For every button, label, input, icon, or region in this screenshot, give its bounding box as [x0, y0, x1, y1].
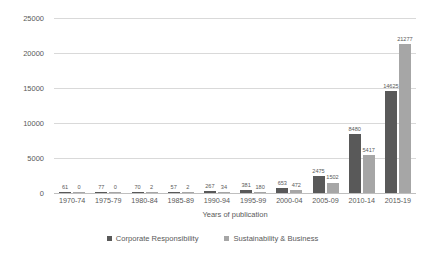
bar-slot: 14625	[385, 18, 397, 193]
bar-slot: 70	[132, 18, 144, 193]
bar-slot: 61	[59, 18, 71, 193]
bar-value-label: 0	[114, 185, 117, 191]
bar-slot: 653	[276, 18, 288, 193]
bar-slot: 77	[95, 18, 107, 193]
bar-slot: 267	[204, 18, 216, 193]
x-axis-tick-label: 1975-79	[90, 196, 126, 205]
bar-value-label: 1502	[326, 175, 338, 181]
bar-groups: 6107707025722673438118065347224751502848…	[54, 18, 416, 193]
bar-slot: 2475	[313, 18, 325, 193]
y-axis-tick-labels: 0500010000150002000025000	[0, 18, 50, 193]
bar[interactable]	[240, 190, 252, 193]
bar[interactable]	[73, 192, 85, 193]
bar[interactable]	[132, 192, 144, 193]
bar-group: 653472	[271, 18, 307, 193]
y-axis-tick-label: 10000	[23, 119, 44, 128]
bar[interactable]	[182, 192, 194, 193]
bar-slot: 8480	[349, 18, 361, 193]
legend-label: Sustainability & Business	[233, 234, 318, 243]
bar-slot: 2	[146, 18, 158, 193]
bar-slot: 381	[240, 18, 252, 193]
x-axis-title: Years of publication	[54, 210, 416, 219]
legend-item[interactable]: Corporate Responsibility	[107, 234, 199, 243]
bar-slot: 0	[109, 18, 121, 193]
bar-value-label: 472	[292, 183, 301, 189]
bar-value-label: 57	[171, 185, 177, 191]
bar[interactable]	[363, 155, 375, 193]
bar-slot: 5417	[363, 18, 375, 193]
x-axis-tick-label: 1995-99	[235, 196, 271, 205]
bar-value-label: 5417	[362, 148, 374, 154]
bar-chart: Number of WoS publications 0500010000150…	[0, 0, 425, 258]
bar-group: 24751502	[307, 18, 343, 193]
bar[interactable]	[146, 192, 158, 193]
bar-group: 84805417	[344, 18, 380, 193]
x-axis-tick-label: 2005-09	[307, 196, 343, 205]
legend: Corporate ResponsibilitySustainability &…	[0, 234, 425, 243]
gridline	[54, 193, 416, 194]
x-axis-tick-label: 2010-14	[344, 196, 380, 205]
bar-value-label: 653	[278, 181, 287, 187]
bar-value-label: 70	[134, 185, 140, 191]
x-axis-tick-label: 1970-74	[54, 196, 90, 205]
bar-group: 1462521277	[380, 18, 416, 193]
bar-value-label: 0	[78, 185, 81, 191]
bar-value-label: 21277	[397, 37, 413, 43]
x-axis-tick-labels: 1970-741975-791980-841985-891990-941995-…	[54, 196, 416, 205]
bar-slot: 180	[254, 18, 266, 193]
legend-item[interactable]: Sustainability & Business	[224, 234, 318, 243]
bar-value-label: 8480	[348, 127, 360, 133]
bar[interactable]	[168, 192, 180, 193]
bar-value-label: 77	[98, 185, 104, 191]
bar-slot: 0	[73, 18, 85, 193]
plot-area: 6107707025722673438118065347224751502848…	[54, 18, 416, 193]
legend-swatch-icon	[107, 236, 112, 241]
bar[interactable]	[218, 192, 230, 193]
bar[interactable]	[276, 188, 288, 193]
bar-value-label: 2475	[312, 169, 324, 175]
legend-label: Corporate Responsibility	[116, 234, 199, 243]
bar-group: 26734	[199, 18, 235, 193]
y-axis-tick-label: 5000	[27, 154, 44, 163]
y-axis-tick-label: 15000	[23, 84, 44, 93]
bar[interactable]	[327, 183, 339, 194]
x-axis-tick-label: 1985-89	[163, 196, 199, 205]
bar-group: 610	[54, 18, 90, 193]
bar[interactable]	[313, 176, 325, 193]
bar-group: 770	[90, 18, 126, 193]
y-axis-tick-label: 25000	[23, 14, 44, 23]
legend-swatch-icon	[224, 236, 229, 241]
bar-group: 702	[126, 18, 162, 193]
bar[interactable]	[59, 192, 71, 193]
bar-slot: 1502	[327, 18, 339, 193]
x-axis-tick-label: 1990-94	[199, 196, 235, 205]
bar[interactable]	[254, 192, 266, 193]
bar-value-label: 2	[150, 185, 153, 191]
bar-value-label: 61	[62, 185, 68, 191]
bar-value-label: 2	[186, 185, 189, 191]
bar[interactable]	[349, 134, 361, 193]
x-axis-tick-label: 1980-84	[126, 196, 162, 205]
bar[interactable]	[109, 192, 121, 193]
bar[interactable]	[204, 191, 216, 193]
bar-slot: 34	[218, 18, 230, 193]
bar-group: 381180	[235, 18, 271, 193]
bar-value-label: 267	[205, 184, 214, 190]
x-axis-tick-label: 2015-19	[380, 196, 416, 205]
bar[interactable]	[399, 44, 411, 193]
bar-value-label: 14625	[383, 84, 399, 90]
bar-slot: 21277	[399, 18, 411, 193]
bar-slot: 57	[168, 18, 180, 193]
bar-value-label: 381	[241, 183, 250, 189]
bar-group: 572	[163, 18, 199, 193]
x-axis-tick-label: 2000-04	[271, 196, 307, 205]
bar[interactable]	[290, 190, 302, 193]
bar[interactable]	[385, 91, 397, 193]
bar[interactable]	[95, 192, 107, 193]
bar-slot: 2	[182, 18, 194, 193]
bar-value-label: 34	[221, 185, 227, 191]
bar-slot: 472	[290, 18, 302, 193]
y-axis-tick-label: 0	[40, 189, 44, 198]
bar-value-label: 180	[255, 185, 264, 191]
y-axis-tick-label: 20000	[23, 49, 44, 58]
